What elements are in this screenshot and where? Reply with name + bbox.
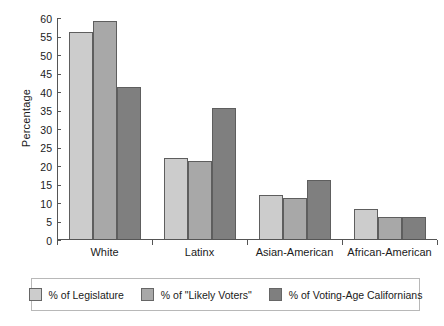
- y-axis-tick-label: 10: [40, 198, 52, 210]
- y-axis-tick: 35: [40, 102, 57, 120]
- y-axis-tick-label: 15: [40, 179, 52, 191]
- legend-item-likely-voters: % of "Likely Voters": [141, 288, 252, 301]
- x-axis-tick-mark: [152, 240, 153, 245]
- bar-group: [248, 18, 343, 239]
- y-axis-tick: 15: [40, 176, 57, 194]
- y-axis-tick-label: 50: [40, 50, 52, 62]
- y-axis-tick: 5: [46, 213, 57, 231]
- y-axis-tick: 10: [40, 194, 57, 212]
- y-axis-tick: 55: [40, 28, 57, 46]
- y-axis-tick: 50: [40, 46, 57, 64]
- x-axis-category-label: Latinx: [152, 246, 247, 258]
- bar-group: [342, 18, 437, 239]
- y-axis-tick-label: 5: [46, 216, 52, 228]
- legend-swatch-icon-legislature: [29, 288, 42, 301]
- bar: [117, 87, 141, 239]
- bar: [354, 209, 378, 239]
- bar: [402, 217, 426, 239]
- legend-label-legislature: % of Legislature: [49, 289, 124, 301]
- legend-item-voting-age: % of Voting-Age Californians: [269, 288, 423, 301]
- y-axis-tick: 40: [40, 83, 57, 101]
- x-axis-tick-mark: [247, 240, 248, 245]
- y-axis-tick-label: 60: [40, 13, 52, 25]
- bar: [283, 198, 307, 239]
- bar: [164, 158, 188, 239]
- x-axis-labels: WhiteLatinxAsian-AmericanAfrican-America…: [57, 246, 437, 258]
- bar: [188, 161, 212, 239]
- legend-item-legislature: % of Legislature: [29, 288, 124, 301]
- bar: [93, 21, 117, 239]
- y-axis-tick-label: 40: [40, 87, 52, 99]
- y-axis-tick-label: 55: [40, 31, 52, 43]
- legend-label-voting-age: % of Voting-Age Californians: [289, 289, 423, 301]
- legend-swatch-icon-voting-age: [269, 288, 282, 301]
- y-axis-tick: 30: [40, 120, 57, 138]
- y-axis-tick-label: 35: [40, 105, 52, 117]
- y-axis-tick-label: 25: [40, 142, 52, 154]
- chart-legend: % of Legislature % of "Likely Voters" % …: [31, 278, 420, 311]
- y-axis-tick: 0: [46, 231, 57, 249]
- bar-group: [58, 18, 153, 239]
- y-axis-tick-label: 20: [40, 161, 52, 173]
- x-axis-category-label: White: [57, 246, 152, 258]
- x-axis-tick-mark: [437, 240, 438, 245]
- x-axis-tick-mark: [57, 240, 58, 245]
- bar-groups: [58, 18, 437, 239]
- y-axis-tick: 20: [40, 157, 57, 175]
- legend-swatch-icon-likely-voters: [141, 288, 154, 301]
- y-axis-tick-label: 30: [40, 124, 52, 136]
- plot-area: 051015202530354045505560: [57, 18, 437, 240]
- bar: [69, 32, 93, 239]
- y-axis-tick: 60: [40, 9, 57, 27]
- y-axis-tick-label: 45: [40, 68, 52, 80]
- x-axis-category-label: Asian-American: [247, 246, 342, 258]
- bar: [378, 217, 402, 239]
- y-axis-tick: 25: [40, 139, 57, 157]
- y-axis-title: Percentage: [20, 48, 32, 188]
- bar: [212, 108, 236, 239]
- bar-group: [153, 18, 248, 239]
- y-axis-tick-label: 0: [46, 235, 52, 247]
- legend-label-likely-voters: % of "Likely Voters": [161, 289, 252, 301]
- x-axis-tick-mark: [342, 240, 343, 245]
- bar: [307, 180, 331, 239]
- x-axis-category-label: African-American: [342, 246, 437, 258]
- y-axis-tick: 45: [40, 65, 57, 83]
- bar: [259, 195, 283, 239]
- bar-chart-figure: Percentage 051015202530354045505560 Whit…: [0, 0, 444, 326]
